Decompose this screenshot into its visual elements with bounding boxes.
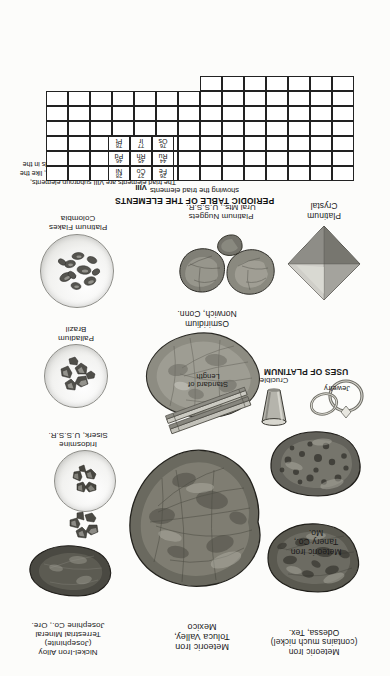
- table-cell: [68, 121, 90, 136]
- uses-of-platinum-title: USES OF PLATINUM: [250, 366, 362, 376]
- table-cell: [332, 136, 354, 151]
- table-cell: [310, 91, 332, 106]
- table-cell: [200, 166, 222, 181]
- table-cell: [244, 136, 266, 151]
- element-cell-ni: 28 Ni: [108, 166, 130, 181]
- element-cell-pt: 78 Pt: [108, 136, 130, 151]
- table-cell: [156, 91, 178, 106]
- element-symbol: Ir: [131, 138, 151, 145]
- table-cell: [200, 76, 222, 91]
- table-cell: [266, 166, 288, 181]
- table-cell: [244, 166, 266, 181]
- table-cell: [178, 91, 200, 106]
- caption-line: Jewelry: [306, 384, 368, 392]
- table-cell: [332, 76, 354, 91]
- table-cell: [112, 121, 134, 136]
- caption-line: Terrestrial Mineral: [8, 629, 128, 638]
- table-cell: [222, 136, 244, 151]
- table-cell: [90, 121, 112, 136]
- table-cell: [134, 91, 156, 106]
- meteoric-iron-toluca-art: [124, 442, 274, 592]
- element-cell-rh: 45 Rh: [130, 151, 152, 166]
- element-symbol: Co: [131, 168, 151, 175]
- periodic-table-subtitle: showing the triad elements: [17, 186, 372, 195]
- label-jewelry: Jewelry: [306, 384, 368, 392]
- caption-line: Meteoric Iron: [138, 642, 266, 652]
- table-cell: [332, 106, 354, 121]
- table-cell: [156, 121, 178, 136]
- caption-line: Odessa, Tex.: [252, 627, 376, 637]
- caption-line: Crucible: [246, 376, 302, 384]
- specimen-platinum-crystal-image: [282, 222, 366, 304]
- caption-line: Mo.: [264, 527, 368, 537]
- table-cell: [222, 76, 244, 91]
- table-cell: [288, 121, 310, 136]
- table-cell: [46, 106, 68, 121]
- table-cell: [332, 166, 354, 181]
- table-cell: [200, 121, 222, 136]
- element-cell-fe: 26 Fe: [152, 166, 174, 181]
- table-cell: [266, 106, 288, 121]
- crucible-art: [254, 384, 294, 430]
- caption-josephinite: Nickel-Iron Alloy (Josephinite) Terrestr…: [8, 620, 128, 656]
- element-symbol: Os: [153, 138, 173, 145]
- table-cell: [200, 106, 222, 121]
- caption-osmiridium: Osmiridium Norwich, Conn.: [144, 309, 270, 328]
- caption-line: Meteoric Iron: [252, 646, 376, 656]
- table-cell: [266, 91, 288, 106]
- caption-line: Nickel-Iron Alloy: [8, 647, 128, 656]
- table-cell: [266, 136, 288, 151]
- platinum-crystal-art: [282, 222, 366, 304]
- table-cell: [310, 151, 332, 166]
- table-cell: [310, 76, 332, 91]
- table-cell: [178, 106, 200, 121]
- table-cell: [90, 91, 112, 106]
- table-cell: [288, 76, 310, 91]
- label-standard-of-length: Standard of Length: [178, 371, 238, 388]
- caption-line: USES OF PLATINUM: [250, 366, 362, 376]
- table-cell: [244, 151, 266, 166]
- josephinite-art: [24, 540, 118, 602]
- table-cell: [288, 166, 310, 181]
- caption-platinum-crystal: Platinum Crystal: [284, 201, 364, 220]
- table-cell: [68, 106, 90, 121]
- table-cell: [178, 151, 200, 166]
- caption-line: (Josephinite): [8, 638, 128, 647]
- element-symbol: Pt: [109, 138, 129, 145]
- table-cell: [178, 121, 200, 136]
- table-cell: [266, 76, 288, 91]
- table-cell: [46, 91, 68, 106]
- caption-line: Crystal: [284, 201, 364, 211]
- table-cell: [90, 106, 112, 121]
- caption-line: Siserk, U.S.S.R.: [26, 430, 130, 439]
- specimen-platinum-nuggets-image: [164, 222, 280, 308]
- table-cell: [68, 166, 90, 181]
- periodic-table: PERIODIC TABLE OF THE ELEMENTS showing t…: [17, 16, 372, 206]
- caption-line: Colombia: [30, 213, 126, 222]
- table-cell: [68, 151, 90, 166]
- element-cell-os: 76 Os: [152, 136, 174, 151]
- table-cell: [68, 136, 90, 151]
- caption-line: (contains much nickel): [252, 637, 376, 647]
- table-cell: [222, 151, 244, 166]
- table-cell: [288, 91, 310, 106]
- caption-meteoric-iron-tanery: Meteoric Iron Tanery Co., Mo.: [264, 527, 368, 556]
- table-cell: [332, 121, 354, 136]
- element-symbol: Rh: [131, 153, 151, 160]
- caption-line: Josephine Co., Ore.: [8, 620, 128, 629]
- table-cell: [134, 106, 156, 121]
- table-cell: [112, 91, 134, 106]
- element-cell-pd: 46 Pd: [108, 151, 130, 166]
- table-cell: [244, 121, 266, 136]
- specimen-standard-of-length-image: [162, 380, 254, 440]
- caption-line: Iridosmine: [26, 439, 130, 448]
- caption-line: Brazil: [30, 324, 122, 333]
- periodic-table-grid: VIII 26 Fe 27 Co 28 Ni 44 Ru: [36, 63, 354, 181]
- table-cell: [266, 151, 288, 166]
- specimen-meteoric-iron-toluca-image: [124, 442, 274, 592]
- caption-meteoric-iron-odessa: Meteoric Iron (contains much nickel) Ode…: [252, 627, 376, 656]
- table-cell: [46, 166, 68, 181]
- table-cell: [178, 136, 200, 151]
- caption-line: Osmiridium: [144, 318, 270, 328]
- caption-line: Meteoric Iron: [264, 546, 368, 556]
